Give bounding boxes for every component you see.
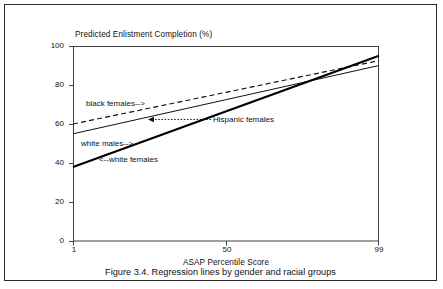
line-white-males-females [73,56,379,167]
y-axis-title: Predicted Enlistment Completion (%) [75,30,212,39]
x-tick-label-50: 50 [215,245,239,254]
annotation-hispanic-females: Hispanic females [213,115,274,124]
annotation-white-males: white males--> [81,139,133,148]
y-tick-label-20: 20 [38,197,64,206]
y-tick-label-60: 60 [38,119,64,128]
x-tick-label-99: 99 [367,245,391,254]
y-tick-label-80: 80 [38,80,64,89]
chart-stage: Predicted Enlistment Completion (%) ASAP… [0,0,443,289]
x-axis-title: ASAP Percentile Score [73,258,379,267]
x-tick-label-1: 1 [62,245,86,254]
annotation-white-females: <--white females [99,155,158,164]
y-tick-label-40: 40 [38,158,64,167]
y-tick-marks [69,47,74,242]
annotation-black-females: black females--> [86,99,145,108]
y-tick-label-100: 100 [38,41,64,50]
y-tick-label-0: 0 [38,236,64,245]
figure-caption: Figure 3.4. Regression lines by gender a… [4,267,437,277]
